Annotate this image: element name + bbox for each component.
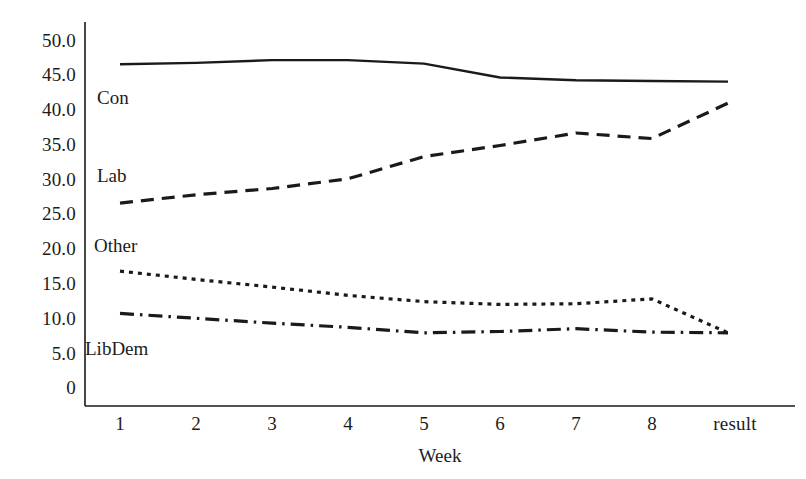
line-chart: 50.0 45.0 40.0 35.0 30.0 25.0 20.0 15.0 … [0, 0, 806, 479]
series-line-libdem [120, 313, 728, 332]
x-tick-label: 8 [607, 414, 697, 433]
series-label-other: Other [94, 236, 137, 255]
axes [85, 22, 795, 406]
series-label-lab: Lab [97, 166, 127, 185]
y-tick-label: 25.0 [14, 204, 76, 223]
y-tick-label: 15.0 [14, 274, 76, 293]
series-label-libdem: LibDem [85, 339, 148, 358]
y-tick-label: 35.0 [14, 135, 76, 154]
x-tick-label: result [690, 414, 780, 433]
y-tick-label: 45.0 [14, 65, 76, 84]
series-line-other [120, 271, 728, 333]
series-line-con [120, 60, 728, 82]
series-line-lab [120, 103, 728, 203]
x-axis-title: Week [360, 446, 520, 465]
data-series-group [120, 60, 728, 333]
y-tick-label: 30.0 [14, 170, 76, 189]
y-tick-label: 50.0 [14, 31, 76, 50]
y-tick-label: 0 [14, 378, 76, 397]
y-tick-label: 20.0 [14, 239, 76, 258]
series-label-con: Con [97, 88, 129, 107]
y-tick-label: 40.0 [14, 100, 76, 119]
y-tick-label: 5.0 [14, 344, 76, 363]
y-tick-label: 10.0 [14, 309, 76, 328]
